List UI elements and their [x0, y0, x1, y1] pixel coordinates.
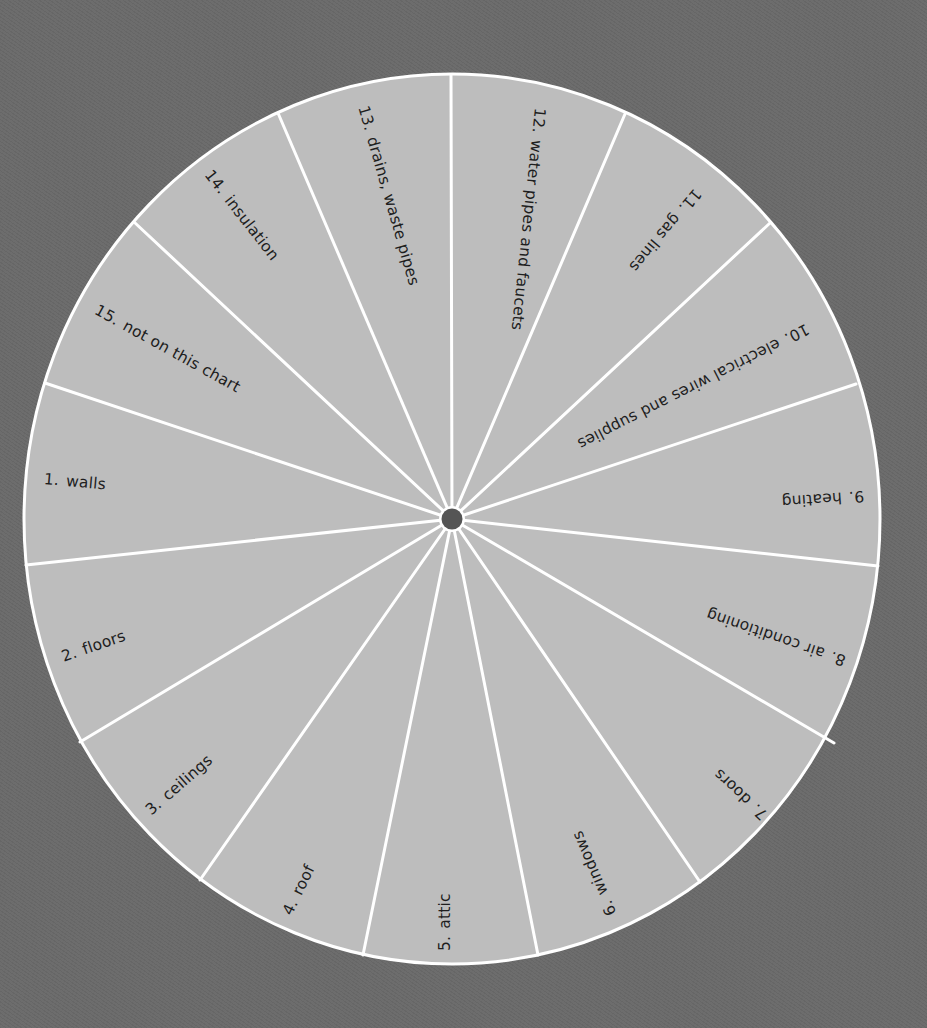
hub-icon — [442, 509, 463, 530]
category-wheel — [0, 0, 927, 1028]
segment-text: walls — [65, 472, 106, 493]
segment-number: 12. — [528, 107, 549, 134]
segment-number: 5. — [436, 936, 454, 951]
divider — [451, 75, 452, 519]
wheel-chart-page: 1.walls 2.floors 3.ceilings 4.roof 5.att… — [0, 0, 927, 1028]
segment-text: attic — [436, 893, 454, 928]
segment-number: 9. — [848, 487, 864, 506]
segment-number: 1. — [43, 470, 60, 489]
segment-label-attic: 5.attic — [436, 893, 454, 951]
